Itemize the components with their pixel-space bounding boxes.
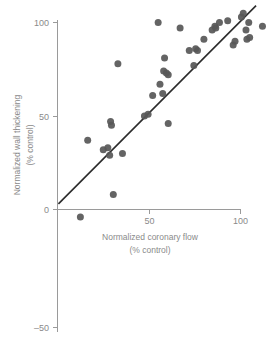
data-point xyxy=(165,120,172,127)
data-point xyxy=(240,10,247,17)
data-point xyxy=(186,47,193,54)
y-axis-title-sub: (% control) xyxy=(25,124,35,165)
x-tick-labels: 0 50 100 xyxy=(144,216,248,226)
scatter-plot-figure: 100 50 0 –50 0 50 100 Normalized coronar… xyxy=(0,0,274,341)
data-point xyxy=(224,17,231,24)
data-point xyxy=(165,71,172,78)
regression-trend-line xyxy=(58,6,256,204)
y-axis-title: Normalized wall thickening xyxy=(12,94,22,195)
data-point xyxy=(84,137,91,144)
x-axis-title-group: Normalized coronary flow (% control) xyxy=(102,232,199,255)
data-point xyxy=(161,55,168,62)
x-tick-label-100: 100 xyxy=(233,216,248,226)
data-point xyxy=(245,19,252,26)
data-point xyxy=(177,25,184,32)
data-point xyxy=(246,34,253,41)
y-tick-labels: 100 50 0 –50 xyxy=(34,18,49,333)
data-point xyxy=(200,36,207,43)
data-point xyxy=(155,19,162,26)
data-point xyxy=(104,144,111,151)
data-point xyxy=(194,47,201,54)
x-tick-marks xyxy=(58,210,241,215)
data-point xyxy=(149,92,156,99)
x-tick-label-50: 50 xyxy=(144,216,154,226)
y-tick-label-0: 0 xyxy=(44,205,49,215)
data-point xyxy=(119,150,126,157)
data-point xyxy=(114,60,121,67)
y-tick-label-50: 50 xyxy=(39,112,49,122)
data-point xyxy=(242,26,249,33)
y-axis-title-group: Normalized wall thickening (% control) xyxy=(12,94,35,195)
data-point xyxy=(216,19,223,26)
y-tick-label-100: 100 xyxy=(34,18,49,28)
data-point xyxy=(156,81,163,88)
y-tick-marks xyxy=(53,23,58,328)
x-axis-title: Normalized coronary flow xyxy=(102,232,199,242)
data-point xyxy=(159,90,166,97)
data-point xyxy=(145,111,152,118)
data-point xyxy=(108,122,115,129)
data-point xyxy=(77,213,84,220)
data-point xyxy=(259,23,266,30)
y-tick-label-neg50: –50 xyxy=(34,323,49,333)
data-point xyxy=(110,191,117,198)
data-point xyxy=(106,152,113,159)
data-point xyxy=(190,62,197,69)
x-axis-title-sub: (% control) xyxy=(129,245,170,255)
axes-group xyxy=(58,20,241,332)
data-point xyxy=(232,38,239,45)
data-points-layer xyxy=(77,10,266,221)
